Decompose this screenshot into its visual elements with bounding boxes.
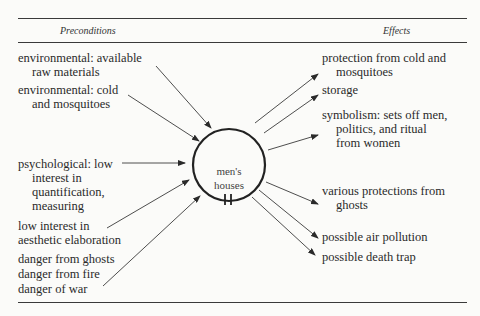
center-label-line2: houses — [214, 179, 244, 191]
center-label-line1: men's — [216, 165, 241, 177]
bottom-rule — [18, 302, 467, 303]
diagram-arrows — [0, 0, 480, 316]
center-label: men's houses — [204, 164, 254, 192]
door-icon — [225, 194, 231, 205]
